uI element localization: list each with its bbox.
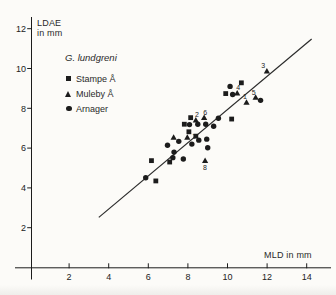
legend-label-stampe: Stampe Å	[76, 74, 116, 84]
data-point-circle	[143, 175, 148, 180]
data-point-triangle	[184, 134, 190, 140]
data-point-circle	[187, 122, 192, 127]
data-point-circle	[176, 139, 181, 144]
y-axis-label-line1: LDAE	[37, 18, 63, 28]
point-label: 3	[261, 62, 265, 69]
data-point-circle	[204, 136, 209, 141]
data-point-square	[182, 122, 187, 127]
triangle-icon	[64, 91, 76, 97]
data-point-square	[167, 160, 172, 165]
data-point-square	[153, 179, 158, 184]
point-label: 8	[203, 164, 207, 171]
x-tick-label: 2	[67, 272, 72, 282]
y-tick-label: 12	[16, 24, 26, 34]
data-point-circle	[216, 116, 221, 121]
x-axis-label: MLD in mm	[264, 250, 312, 260]
data-point-circle	[203, 122, 208, 127]
legend-item-muleby: Muleby Å	[64, 86, 117, 101]
circle-icon	[64, 106, 76, 112]
data-point-circle	[171, 149, 176, 154]
x-tick-label: 4	[106, 272, 111, 282]
data-point-circle	[227, 84, 232, 89]
data-point-circle	[205, 145, 210, 150]
legend-item-arnager: Arnager	[64, 101, 117, 116]
legend-title: G. lundgreni	[65, 52, 117, 63]
x-tick-label: 6	[146, 272, 151, 282]
y-axis-label: LDAE in mm	[37, 18, 63, 38]
point-label: 1	[243, 93, 247, 100]
y-tick-label: 10	[16, 64, 26, 74]
legend-label-muleby: Muleby Å	[76, 89, 114, 99]
y-tick-label: 6	[21, 143, 26, 153]
data-point-square	[149, 158, 154, 163]
data-point-circle	[196, 137, 201, 142]
point-label: 4	[236, 84, 240, 91]
data-point-square	[223, 91, 228, 96]
data-point-circle	[211, 124, 216, 129]
data-point-triangle	[243, 99, 249, 105]
x-tick-label: 12	[262, 272, 272, 282]
data-point-square	[186, 129, 191, 134]
point-label: 5	[252, 89, 256, 96]
y-tick-label: 8	[21, 104, 26, 114]
data-point-circle	[258, 98, 263, 103]
data-point-circle	[181, 156, 186, 161]
data-point-square	[188, 115, 193, 120]
data-point-triangle	[202, 157, 208, 163]
data-point-triangle	[264, 68, 270, 74]
point-label: 7	[192, 133, 196, 140]
data-point-circle	[195, 122, 200, 127]
y-tick-label: 2	[21, 223, 26, 233]
data-point-circle	[230, 92, 235, 97]
x-tick-label: 8	[185, 272, 190, 282]
data-point-circle	[165, 143, 170, 148]
point-label: 6	[203, 109, 207, 116]
trend-line	[99, 39, 312, 217]
data-point-circle	[170, 155, 175, 160]
x-tick-label: 14	[302, 272, 312, 282]
legend: G. lundgreni Stampe Å Muleby Å Arnager	[64, 52, 117, 116]
y-axis-label-line2: in mm	[37, 28, 63, 38]
data-point-triangle	[171, 134, 177, 140]
legend-item-stampe: Stampe Å	[64, 71, 117, 86]
square-icon	[64, 76, 76, 81]
data-point-circle	[189, 141, 194, 146]
legend-label-arnager: Arnager	[76, 104, 108, 114]
x-tick-label: 10	[222, 272, 232, 282]
y-tick-label: 4	[21, 183, 26, 193]
data-point-square	[229, 117, 234, 122]
point-label: 2	[195, 111, 199, 118]
figure-container: 24681012142468101212345678 LDAE in mm ML…	[0, 0, 336, 295]
